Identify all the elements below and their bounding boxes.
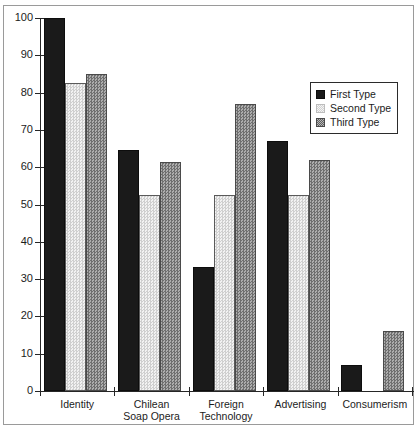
legend-label-third-type: Third Type <box>330 116 379 128</box>
x-axis-category-label-line: Advertising <box>263 398 337 410</box>
y-axis-tick-label: 60 <box>3 161 33 172</box>
bar <box>383 331 404 391</box>
x-axis-category-label: ChileanSoap Opera <box>114 398 188 422</box>
y-axis-tick-label: 90 <box>3 49 33 60</box>
y-axis-tick-label: 40 <box>3 236 33 247</box>
x-axis-tick <box>412 387 413 396</box>
legend-label-second-type: Second Type <box>330 102 391 114</box>
bar <box>288 195 309 391</box>
y-axis-tick-label: 0 <box>3 385 33 396</box>
bar <box>160 162 181 391</box>
legend: First Type Second Type Third Type <box>310 82 398 134</box>
y-axis-tick-label: 50 <box>3 199 33 210</box>
legend-swatch-second-type-icon <box>316 104 325 113</box>
y-axis-tick-label: 20 <box>3 310 33 321</box>
x-axis-category-label-line: Soap Opera <box>114 410 188 422</box>
x-axis-category-label: Consumerism <box>338 398 412 410</box>
plot-area <box>40 18 412 391</box>
bar <box>235 104 256 391</box>
y-axis-tick-label: 70 <box>3 124 33 135</box>
legend-item: Second Type <box>316 101 392 115</box>
legend-item: Third Type <box>316 115 392 129</box>
x-axis-category-label-line: Technology <box>189 410 263 422</box>
bar <box>118 150 139 391</box>
legend-item: First Type <box>316 87 392 101</box>
legend-swatch-third-type-icon <box>316 118 325 127</box>
x-axis-category-label: ForeignTechnology <box>189 398 263 422</box>
x-axis-category-label: Advertising <box>263 398 337 410</box>
bar <box>44 18 65 391</box>
bar <box>65 83 86 391</box>
y-axis-tick-label: 100 <box>3 12 33 23</box>
y-axis-tick-label: 10 <box>3 348 33 359</box>
x-axis-category-label-line: Consumerism <box>338 398 412 410</box>
bar-chart-figure: 0102030405060708090100 IdentityChileanSo… <box>0 0 418 432</box>
bar <box>139 195 160 391</box>
x-axis-category-label-line: Chilean <box>114 398 188 410</box>
x-axis-category-label-line: Foreign <box>189 398 263 410</box>
y-axis-tick-label: 80 <box>3 87 33 98</box>
bar <box>267 141 288 391</box>
legend-label-first-type: First Type <box>330 88 376 100</box>
bar <box>341 365 362 391</box>
x-axis-line <box>40 391 414 392</box>
y-axis-tick-label: 30 <box>3 273 33 284</box>
legend-swatch-first-type-icon <box>316 90 325 99</box>
x-axis-category-label: Identity <box>40 398 114 410</box>
x-axis-category-label-line: Identity <box>40 398 114 410</box>
bar <box>86 74 107 391</box>
bar <box>214 195 235 391</box>
bar <box>193 267 214 391</box>
bar <box>309 160 330 391</box>
